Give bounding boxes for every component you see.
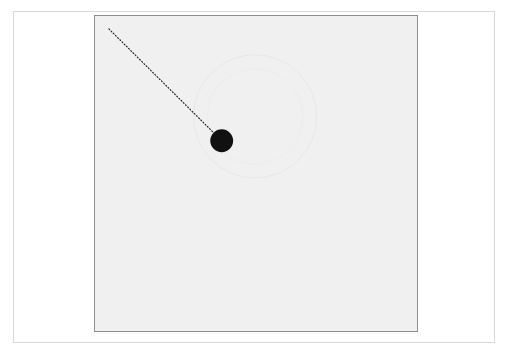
orbit-circle-shape (193, 55, 316, 178)
diagram-panel (94, 15, 418, 332)
pendulum-string-line (109, 29, 221, 140)
diagram-canvas (95, 16, 417, 331)
pendulum-bob-dot (210, 129, 233, 152)
screenshot-canvas (0, 0, 507, 355)
